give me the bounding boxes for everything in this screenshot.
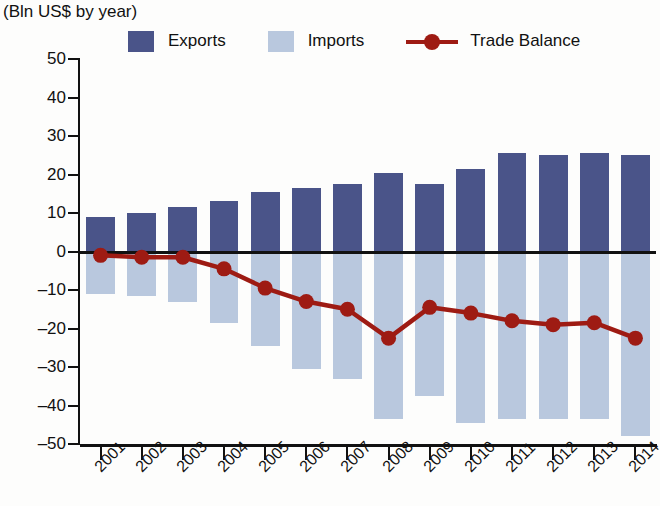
legend-label-imports: Imports (308, 31, 365, 51)
legend-item-imports: Imports (268, 31, 365, 52)
trade-balance-marker (134, 250, 149, 265)
trade-balance-series (0, 55, 660, 455)
chart-subtitle: (Bln US$ by year) (3, 2, 137, 22)
trade-balance-marker (93, 248, 108, 263)
legend-label-exports: Exports (168, 31, 226, 51)
trade-balance-line-marker-icon (406, 31, 458, 52)
exports-swatch-icon (128, 31, 154, 52)
x-axis-labels: 2001200220032004200520062007200820092010… (0, 455, 660, 506)
legend-item-exports: Exports (128, 31, 226, 52)
trade-balance-marker (505, 313, 520, 328)
trade-balance-marker (299, 294, 314, 309)
trade-balance-marker (463, 306, 478, 321)
trade-balance-marker (340, 302, 355, 317)
chart-legend: Exports Imports Trade Balance (128, 30, 622, 52)
trade-balance-marker (587, 315, 602, 330)
trade-balance-marker (217, 261, 232, 276)
imports-swatch-icon (268, 31, 294, 52)
plot-area: 50403020100–10–20–30–40–50 (0, 55, 660, 455)
trade-balance-marker (422, 300, 437, 315)
legend-label-trade-balance: Trade Balance (470, 31, 580, 51)
trade-balance-marker (546, 317, 561, 332)
trade-balance-marker (381, 331, 396, 346)
trade-balance-marker (258, 281, 273, 296)
trade-balance-marker (175, 250, 190, 265)
chart-page: (Bln US$ by year) Exports Imports Trade … (0, 0, 660, 506)
trade-balance-marker (628, 331, 643, 346)
legend-item-trade-balance: Trade Balance (406, 31, 580, 52)
